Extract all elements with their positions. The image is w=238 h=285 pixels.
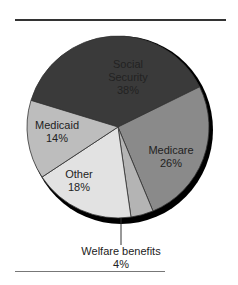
label-social-security-pct: 38% <box>117 84 139 96</box>
label-welfare-pct: 4% <box>113 258 129 270</box>
label-other-pct: 18% <box>68 181 90 193</box>
label-medicare: Medicare <box>148 144 193 156</box>
label-social-security-1: Social <box>113 58 143 70</box>
label-other: Other <box>65 168 93 180</box>
label-medicaid-pct: 14% <box>46 132 68 144</box>
pie-chart: Social Security 38% Medicare 26% Medicai… <box>0 0 238 285</box>
label-medicaid: Medicaid <box>35 119 79 131</box>
label-medicare-pct: 26% <box>160 157 182 169</box>
label-welfare: Welfare benefits <box>81 245 161 257</box>
label-social-security-2: Security <box>108 71 148 83</box>
bottom-rule <box>15 271 165 272</box>
